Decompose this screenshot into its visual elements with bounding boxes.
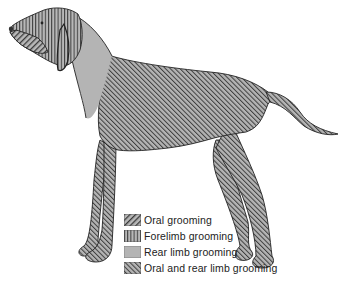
legend-label: Forelimb grooming (144, 230, 233, 242)
legend-item-oral-and-rear-limb: Oral and rear limb grooming (124, 260, 277, 276)
swatch-rear-limb-icon (124, 246, 141, 258)
swatch-oral-icon (124, 214, 141, 226)
legend-item-forelimb: Forelimb grooming (124, 228, 277, 244)
nose (9, 27, 13, 32)
eye (41, 22, 44, 25)
swatch-oral-rear-icon (124, 262, 141, 274)
legend-label: Oral grooming (144, 214, 212, 226)
legend-label: Rear limb grooming (144, 246, 237, 258)
legend: Oral grooming Forelimb grooming Rear lim… (124, 212, 277, 276)
legend-item-oral: Oral grooming (124, 212, 277, 228)
legend-item-rear-limb: Rear limb grooming (124, 244, 277, 260)
swatch-forelimb-icon (124, 230, 141, 242)
legend-label: Oral and rear limb grooming (144, 262, 277, 274)
